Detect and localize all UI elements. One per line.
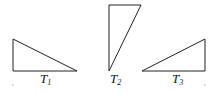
dot-marker-left: [12, 84, 13, 85]
triangle-t2-group: T2: [109, 5, 141, 87]
triangle-t3: [142, 39, 205, 71]
triangle-t1-label: T1: [40, 71, 51, 87]
triangle-t3-label: T3: [172, 71, 183, 87]
dot-marker-right: [204, 84, 205, 85]
triangle-t3-group: T3: [142, 39, 205, 87]
triangle-t2-label: T2: [110, 71, 121, 87]
triangle-t1-group: T1: [13, 39, 77, 87]
triangle-t2: [109, 5, 141, 71]
triangles-diagram: T1 T2 T3: [0, 0, 221, 93]
triangle-t1: [13, 39, 77, 71]
